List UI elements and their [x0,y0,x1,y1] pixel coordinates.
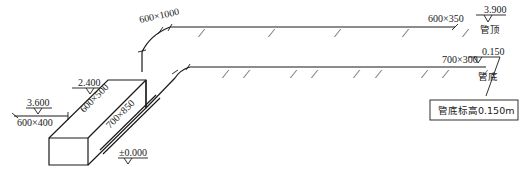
svg-text:⟋: ⟋ [462,28,469,39]
annot-pipe-top: 管顶 [480,24,500,35]
svg-text:⟋: ⟋ [353,69,360,80]
elev-bottom-end: 0.150 [482,46,505,57]
svg-text:⟋: ⟋ [222,69,229,80]
note-box-text: 管底标高0.150m [438,105,514,116]
label-riser: 600×1000 [138,6,180,25]
svg-text:⟋: ⟋ [402,28,409,39]
svg-text:⟋: ⟋ [198,28,205,39]
elev-unit-top: 2.400 [78,77,101,88]
svg-text:⟋: ⟋ [243,69,250,80]
svg-text:⟋: ⟋ [311,69,318,80]
label-bottom-end: 700×300 [442,54,478,65]
svg-text:⟋: ⟋ [268,28,275,39]
top-diffusers: ⟋ ⟋ ⟋ ⟋ ⟋ [198,28,469,39]
svg-text:⟋: ⟋ [375,69,382,80]
label-top-end: 600×350 [428,13,464,24]
diagram-svg: ⟋ ⟋ ⟋ ⟋ ⟋ ⟋ ⟋ ⟋ ⟋ ⟋ ⟋ ⟋ ⟋ ⟋ 600×1000 [0,0,526,175]
svg-text:⟋: ⟋ [290,69,297,80]
elev-top-end: 3.900 [484,4,507,15]
svg-text:⟋: ⟋ [421,69,428,80]
annot-pipe-bottom: 管底 [478,71,498,82]
upper-riser [138,24,458,72]
elev-ground: ±0.000 [119,147,147,158]
svg-text:⟋: ⟋ [442,69,449,80]
label-inlet: 600×400 [17,117,53,128]
elev-inlet: 3.600 [27,97,50,108]
svg-text:⟋: ⟋ [334,28,341,39]
duct-diagram: ⟋ ⟋ ⟋ ⟋ ⟋ ⟋ ⟋ ⟋ ⟋ ⟋ ⟋ ⟋ ⟋ ⟋ 600×1000 [0,0,526,175]
bottom-diffusers: ⟋ ⟋ ⟋ ⟋ ⟋ ⟋ ⟋ ⟋ ⟋ [222,69,488,80]
